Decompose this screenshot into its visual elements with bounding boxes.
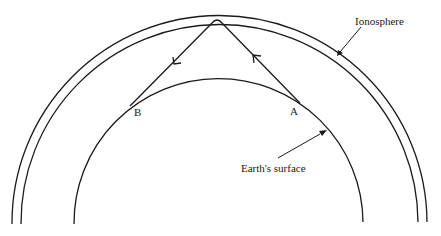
ionosphere-outer-arc [12,15,427,224]
point-b-label: B [134,106,141,118]
ionosphere-diagram: Ionosphere Earth's surface A B [0,0,441,236]
ionosphere-leader-line [340,27,361,52]
ionosphere-inner-arc [21,24,418,224]
earth-pointer-icon [319,130,327,136]
earth-leader-line [278,134,320,158]
ionosphere-label: Ionosphere [355,15,404,27]
point-a-label: A [290,105,298,117]
earth-surface-arc [74,79,363,224]
earth-surface-label: Earth's surface [241,162,306,174]
